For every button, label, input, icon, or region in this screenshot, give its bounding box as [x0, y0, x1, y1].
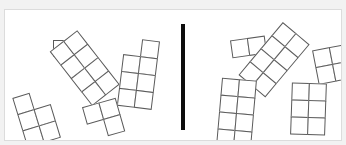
polyomino-pentomino-2x3-missing-topright[interactable]: [12, 88, 59, 141]
polyomino-cell: [290, 116, 309, 135]
screenshot-stage: [0, 0, 346, 145]
polyomino-cell: [102, 114, 124, 136]
polyomino-cell: [216, 128, 236, 141]
polyomino-cell: [290, 99, 309, 118]
polyomino-canvas: [4, 9, 342, 141]
polyomino-cell: [291, 82, 310, 101]
polyomino-cell: [307, 116, 326, 135]
polyomino-tetromino-2x2-square[interactable]: [312, 44, 342, 84]
polyomino-cell: [308, 82, 327, 101]
vertical-divider-bar: [181, 24, 185, 130]
polyomino-heptomino-2x4-missing-topleft[interactable]: [117, 37, 159, 109]
right-panel: [187, 10, 342, 140]
polyomino-cell: [38, 120, 60, 141]
polyomino-cell: [133, 89, 153, 109]
polyomino-octomino-2x4-upright[interactable]: [216, 78, 256, 141]
polyomino-hexomino-2x3-upright[interactable]: [290, 82, 326, 134]
left-panel: [5, 10, 181, 140]
polyomino-octomino-2x4-diagonal[interactable]: [50, 31, 119, 106]
polyomino-cell: [232, 129, 252, 141]
polyomino-cell: [307, 99, 326, 118]
